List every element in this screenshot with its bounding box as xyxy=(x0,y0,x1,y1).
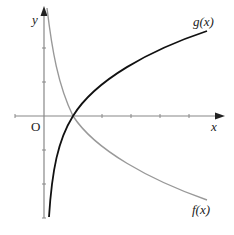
y-axis-label: y xyxy=(30,12,38,27)
graph: y x O g(x) f(x) xyxy=(0,0,234,235)
x-axis-label: x xyxy=(210,119,217,134)
curve-g-label: g(x) xyxy=(193,14,214,29)
y-axis-arrow-icon xyxy=(41,6,48,16)
curve-g xyxy=(49,31,207,217)
origin-label: O xyxy=(31,119,40,134)
curve-f xyxy=(47,8,207,200)
y-axis xyxy=(41,6,48,218)
x-axis xyxy=(15,113,225,120)
curve-f-label: f(x) xyxy=(192,202,210,217)
